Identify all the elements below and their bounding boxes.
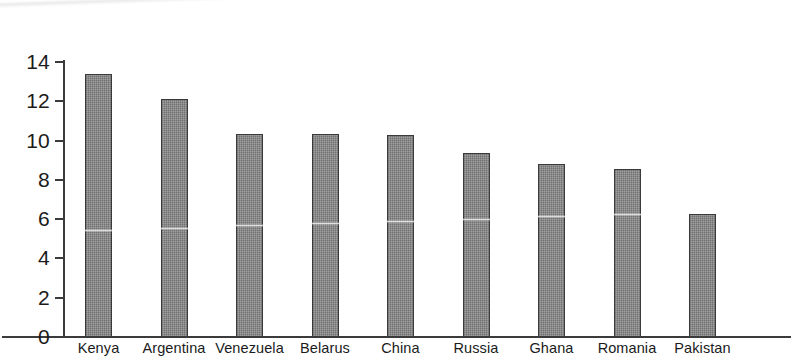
bar xyxy=(312,134,339,337)
y-axis-tick-label: 6 xyxy=(0,208,50,229)
y-axis-tick-label-text: 12 xyxy=(2,90,50,111)
y-axis-tick-label: 12 xyxy=(0,90,50,111)
y-axis-tick-label-text: 6 xyxy=(2,208,50,229)
y-axis-tick xyxy=(55,179,64,181)
bar xyxy=(689,214,716,337)
y-axis-tick-label-text: 0 xyxy=(2,326,50,347)
y-axis-tick xyxy=(55,140,64,142)
y-axis-tick xyxy=(55,257,64,259)
bar xyxy=(614,169,641,337)
x-axis-label: Pakistan xyxy=(653,340,753,357)
y-axis-tick-label: 2 xyxy=(0,287,50,308)
y-axis-tick-label-text: 4 xyxy=(2,247,50,268)
y-axis-tick xyxy=(55,61,64,63)
y-axis-tick-label: 10 xyxy=(0,130,50,151)
bar xyxy=(236,134,263,337)
y-axis-tick-label: 8 xyxy=(0,169,50,190)
y-axis-tick xyxy=(55,297,64,299)
bar xyxy=(463,153,490,337)
scan-line-artifact xyxy=(687,211,718,214)
y-axis-tick xyxy=(55,100,64,102)
bar xyxy=(538,164,565,337)
y-axis-tick xyxy=(55,336,64,338)
y-axis-tick-label: 4 xyxy=(0,247,50,268)
bar xyxy=(387,135,414,337)
y-axis-tick-label-text: 14 xyxy=(2,51,50,72)
y-axis-tick xyxy=(55,218,64,220)
y-axis-tick-label-text: 2 xyxy=(2,287,50,308)
bar-chart: 14121086420 KenyaArgentinaVenezuelaBelar… xyxy=(0,0,811,360)
bar xyxy=(85,74,112,337)
y-axis-tick-label-text: 10 xyxy=(2,130,50,151)
y-axis-tick-label: 14 xyxy=(0,51,50,72)
y-axis-tick-label: 0 xyxy=(0,326,50,347)
bar xyxy=(161,99,188,337)
y-axis-tick-label-text: 8 xyxy=(2,169,50,190)
